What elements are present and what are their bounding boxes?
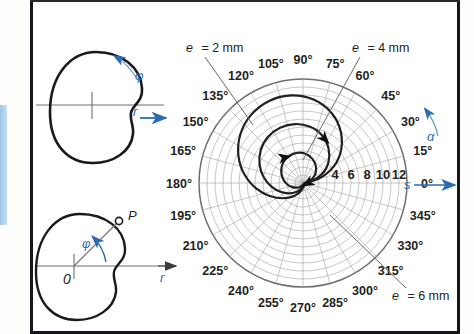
callout-label-e2: e = 2 mm [186, 38, 243, 55]
callout-leader-e6 [330, 215, 406, 288]
callout-label-e4: e = 4 mm [352, 38, 409, 55]
cam-top-r-label: r [133, 104, 138, 119]
figure-page: φ r P φ 0 r 0°15°30°45°60°75°90°105°120°… [0, 0, 474, 334]
cam-bottom-r-label: r [160, 270, 165, 285]
polar-grid-spoke [203, 183, 303, 210]
polar-grid [199, 79, 407, 287]
cam-bottom-origin-label: 0 [63, 271, 71, 287]
polar-angle-label-225: 225° [202, 264, 228, 278]
polar-grid-spoke [303, 183, 377, 257]
cam-bottom-radius-line [74, 222, 118, 266]
polar-angle-label-0: 0° [421, 177, 433, 191]
polar-radial-tick-6: 6 [347, 167, 354, 182]
cam-bottom-angle-arc [94, 238, 106, 262]
polar-angle-label-315: 315° [378, 264, 404, 278]
polar-grid-spoke [303, 183, 355, 273]
cam-bottom-point-p-label: P [128, 208, 137, 223]
polar-grid-spoke [303, 183, 330, 283]
polar-radial-tick-4: 4 [331, 167, 339, 182]
cam-top-phi-label: φ [135, 68, 144, 83]
s-axis-label: s [404, 177, 411, 192]
polar-radial-tick-8: 8 [363, 167, 370, 182]
polar-grid-spoke [229, 109, 303, 183]
polar-angle-label-75: 75° [326, 57, 345, 71]
polar-angle-label-270: 270° [290, 301, 316, 315]
polar-angle-label-45: 45° [381, 89, 400, 103]
cam-disc-bottom: P φ 0 r [36, 208, 176, 320]
polar-angle-label-90: 90° [294, 53, 313, 67]
polar-angle-label-345: 345° [410, 209, 436, 223]
polar-angle-label-150: 150° [183, 115, 209, 129]
polar-diagram: 0°15°30°45°60°75°90°105°120°135°150°165°… [166, 38, 455, 315]
polar-angle-label-60: 60° [356, 69, 375, 83]
cam-top-profile [50, 52, 142, 163]
curve-callout-arrowhead [284, 157, 287, 158]
polar-angle-label-210: 210° [183, 239, 209, 253]
alpha-label: α [427, 129, 435, 144]
callout-label-e6: e = 6 mm [392, 286, 449, 303]
polar-angle-label-105: 105° [258, 57, 284, 71]
polar-angle-label-120: 120° [228, 69, 254, 83]
polar-angle-label-300: 300° [352, 284, 378, 298]
polar-radial-tick-10: 10 [376, 167, 390, 182]
polar-angle-label-15: 15° [413, 144, 432, 158]
figure-canvas: φ r P φ 0 r 0°15°30°45°60°75°90°105°120°… [0, 0, 474, 334]
polar-grid-spoke [303, 183, 393, 235]
polar-angle-label-255: 255° [258, 296, 284, 310]
polar-angle-label-240: 240° [228, 284, 254, 298]
polar-angle-label-165: 165° [170, 144, 196, 158]
polar-angle-label-330: 330° [397, 239, 423, 253]
cam-bottom-profile [36, 214, 125, 320]
polar-angle-label-195: 195° [170, 209, 196, 223]
polar-angle-label-135: 135° [202, 89, 228, 103]
polar-grid-spoke [203, 156, 303, 183]
cam-bottom-point-p-marker [115, 217, 122, 224]
polar-angle-label-30: 30° [401, 115, 420, 129]
cam-bottom-phi-label: φ [82, 236, 91, 251]
cam-disc-top: φ r [36, 52, 166, 163]
polar-angle-label-180: 180° [166, 177, 192, 191]
polar-grid-spoke [303, 183, 403, 210]
polar-angle-label-285: 285° [322, 296, 348, 310]
